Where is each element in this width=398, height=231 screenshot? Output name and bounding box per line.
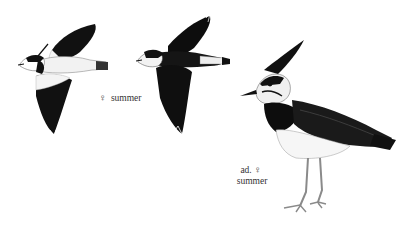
illustration-plate: ♀ summer ad. ♀ summer [0,0,398,231]
caption-label: summer [111,93,142,103]
foot [284,205,306,212]
lower-wing [156,65,192,134]
caption-flying-female: ♀ summer [99,92,141,104]
bill [240,90,257,96]
upper-wing [52,24,96,62]
upper-wing [168,16,210,57]
foot [310,202,326,208]
flying-lapwing-middle [136,14,230,134]
crest [264,40,304,74]
female-symbol-icon: ♀ [254,164,262,175]
caption-prefix: ad. [240,165,251,175]
legs [300,158,322,206]
caption-standing-adult: ad. ♀ summer [232,164,272,187]
female-symbol-icon: ♀ [99,92,107,103]
bird-illustrations [0,0,398,231]
caption-label: summer [232,176,272,187]
flying-lapwing-left [18,24,108,136]
